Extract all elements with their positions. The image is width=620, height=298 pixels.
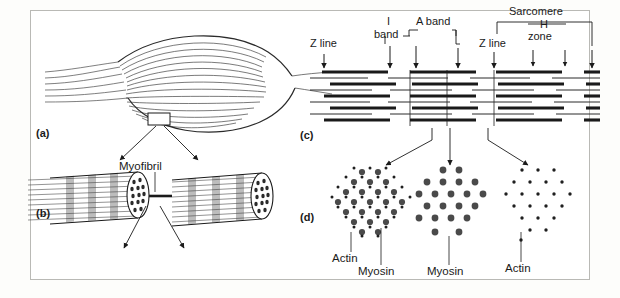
label-myosin-mid: Myosin bbox=[427, 265, 463, 277]
label-myosin-left: Myosin bbox=[358, 265, 394, 277]
label-i-band-line1: I bbox=[387, 16, 390, 28]
muscle-ultrastructure-figure: (a) (b) (c) (d) Myofibril Z line I band … bbox=[0, 0, 620, 298]
label-sarcomere: Sarcomere bbox=[509, 6, 563, 18]
label-actin-right: Actin bbox=[505, 262, 531, 274]
panel-letter-a: (a) bbox=[36, 128, 49, 140]
myofilament-array bbox=[310, 72, 600, 120]
xsec-overlap bbox=[331, 167, 412, 238]
panel-a-muscle bbox=[45, 36, 332, 160]
label-z-line-left: Z line bbox=[310, 38, 337, 50]
label-actin-left: Actin bbox=[332, 252, 358, 264]
label-z-line-right: Z line bbox=[479, 38, 506, 50]
panel-letter-b: (b) bbox=[36, 208, 50, 220]
panel-letter-d: (d) bbox=[300, 212, 314, 224]
label-i-band-line2: band bbox=[374, 29, 398, 41]
panel-c-sarcomere bbox=[310, 22, 600, 165]
label-h-zone-line1: H bbox=[540, 19, 548, 31]
panel-d-cross-sections bbox=[331, 167, 572, 266]
label-a-band: A band bbox=[416, 16, 450, 28]
panel-letter-c: (c) bbox=[300, 130, 313, 142]
label-h-zone-line2: zone bbox=[528, 31, 552, 43]
xsec-actin-only bbox=[504, 168, 571, 241]
panel-b-myofibrils bbox=[28, 172, 273, 248]
myofibril-callout-label: Myofibril bbox=[119, 160, 162, 172]
magnification-box bbox=[148, 113, 170, 125]
myofibril-right bbox=[172, 173, 273, 226]
xsec-myosin-only bbox=[416, 167, 487, 236]
